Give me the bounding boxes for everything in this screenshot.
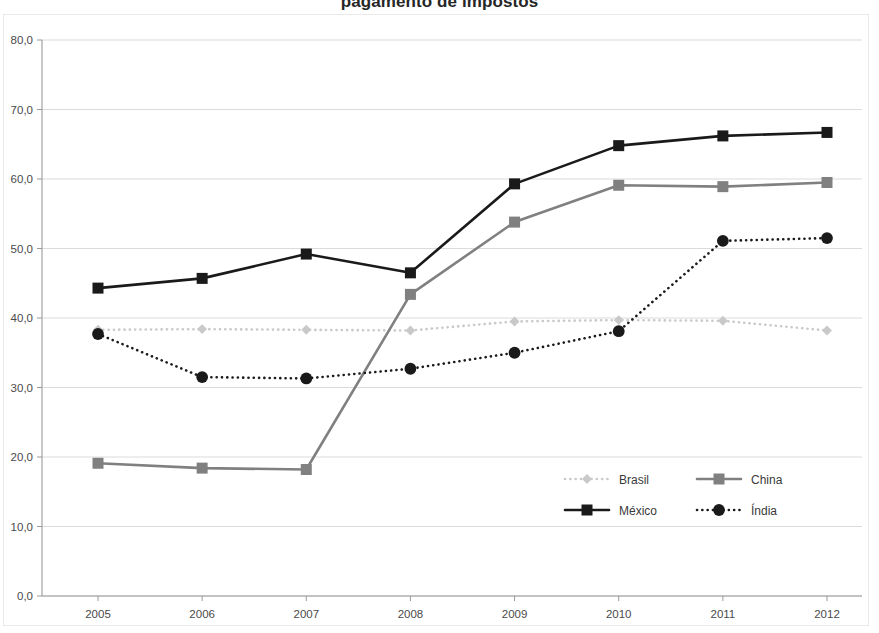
data-point-marker [582,474,592,484]
gridlines-group [42,40,862,596]
series-mxico [93,127,833,294]
data-point-marker [614,315,624,325]
y-axis-tick-label: 50,0 [11,243,33,255]
data-point-marker [613,180,624,191]
legend-item-brasil[interactable]: Brasil [565,473,649,487]
line-chart-plot: 80,070,060,050,040,030,020,010,00,0 2005… [0,0,879,633]
data-point-marker [717,181,728,192]
legend-label: Brasil [619,473,649,487]
data-point-marker [197,273,208,284]
series-line [98,132,827,288]
chart-legend: BrasilChinaMéxicoÍndia [565,473,783,518]
data-point-marker [509,347,521,359]
x-axis-tick-label: 2010 [606,608,632,620]
data-point-marker [405,289,416,300]
data-point-marker [613,140,624,151]
x-axis-tick-label: 2006 [189,608,215,620]
x-axis-tick-label: 2009 [502,608,528,620]
legend-item-ndia[interactable]: Índia [697,503,777,518]
data-point-marker [405,326,415,336]
data-point-marker [717,235,729,247]
data-point-marker [822,326,832,336]
y-axis-tick-label: 60,0 [11,173,33,185]
data-point-marker [301,249,312,260]
data-point-marker [93,283,104,294]
data-point-marker [196,371,208,383]
series-ndia [92,232,833,384]
x-tick-marks-group [98,596,827,601]
data-point-marker [301,464,312,475]
data-point-marker [93,458,104,469]
y-axis-labels-group: 80,070,060,050,040,030,020,010,00,0 [11,34,33,602]
data-point-marker [718,316,728,326]
data-point-marker [509,178,520,189]
y-tick-marks-group [37,40,42,596]
legend-label: México [619,504,657,518]
y-axis-tick-label: 0,0 [17,590,33,602]
data-point-marker [582,505,593,516]
x-axis-tick-label: 2008 [398,608,424,620]
data-point-marker [300,373,312,385]
data-point-marker [405,363,417,375]
data-point-marker [197,324,207,334]
x-axis-labels-group: 20052006200720082009201020112012 [85,608,840,620]
data-point-marker [197,463,208,474]
data-point-marker [613,325,625,337]
legend-label: Índia [751,503,777,518]
chart-container: pagamento de impostos 80,070,060,050,040… [0,0,879,633]
data-point-marker [405,267,416,278]
x-axis-tick-label: 2005 [85,608,111,620]
legend-label: China [751,473,783,487]
legend-item-china[interactable]: China [697,473,783,487]
legend-item-mxico[interactable]: México [565,504,657,518]
data-point-marker [821,232,833,244]
data-point-marker [92,328,104,340]
data-point-marker [509,217,520,228]
x-axis-tick-label: 2007 [293,608,319,620]
y-axis-tick-label: 40,0 [11,312,33,324]
series-line [98,320,827,330]
data-point-marker [301,325,311,335]
x-axis-tick-label: 2011 [710,608,735,620]
data-point-marker [822,127,833,138]
y-axis-tick-label: 30,0 [11,382,33,394]
y-axis-tick-label: 80,0 [11,34,33,46]
data-point-marker [713,504,725,516]
data-point-marker [714,474,725,485]
data-point-marker [822,177,833,188]
y-axis-tick-label: 20,0 [11,451,33,463]
y-axis-tick-label: 70,0 [11,104,33,116]
x-axis-tick-label: 2012 [814,608,840,620]
data-point-marker [717,130,728,141]
y-axis-tick-label: 10,0 [11,521,33,533]
